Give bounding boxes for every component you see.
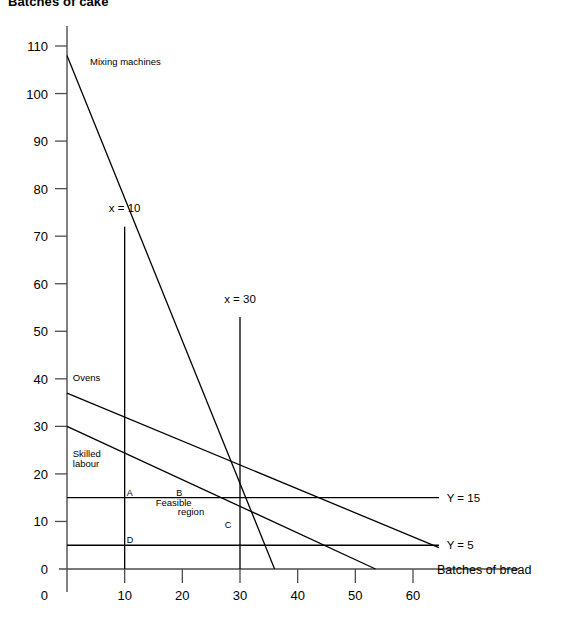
y-axis-tick-label: 0 bbox=[41, 562, 48, 577]
vertex-label-c: C bbox=[225, 520, 232, 530]
line-label-x-30: x = 30 bbox=[224, 293, 256, 305]
x-axis-tick-label: 30 bbox=[233, 588, 247, 603]
y-axis-ticks: 0102030405060708090100110 bbox=[26, 39, 67, 577]
line-label-skilled-labour: Skilledlabour bbox=[73, 448, 101, 469]
line-label-x-10: x = 10 bbox=[109, 202, 141, 214]
constraint-line bbox=[67, 56, 275, 569]
vertex-label-a: A bbox=[127, 488, 133, 498]
y-axis-tick-label: 50 bbox=[34, 324, 48, 339]
line-label-y-5: Y = 5 bbox=[447, 539, 474, 551]
line-label-mixing-machines: Mixing machines bbox=[90, 56, 161, 67]
y-axis-tick-label: 100 bbox=[26, 87, 48, 102]
constraint-line bbox=[67, 393, 439, 548]
y-axis-tick-label: 10 bbox=[34, 514, 48, 529]
x-axis-tick-label: 40 bbox=[290, 588, 304, 603]
y-axis-tick-label: 40 bbox=[34, 372, 48, 387]
y-axis-tick-label: 20 bbox=[34, 467, 48, 482]
y-axis-tick-label: 30 bbox=[34, 419, 48, 434]
x-axis-tick-label: 10 bbox=[117, 588, 131, 603]
y-axis-tick-label: 110 bbox=[27, 39, 48, 54]
vertex-label-d: D bbox=[127, 535, 134, 545]
y-axis-tick-label: 80 bbox=[34, 182, 48, 197]
y-axis-tick-label: 90 bbox=[34, 134, 48, 149]
chart-annotations: Feasibleregion bbox=[156, 497, 204, 518]
x-axis-tick-label: 20 bbox=[175, 588, 189, 603]
axes-group bbox=[59, 26, 519, 592]
constraint-lines bbox=[67, 56, 439, 569]
y-axis-tick-label: 70 bbox=[34, 229, 48, 244]
line-label-ovens: Ovens bbox=[73, 372, 101, 383]
x-axis-title: Batches of bread bbox=[437, 563, 532, 577]
origin-label: 0 bbox=[41, 588, 48, 603]
linear-programming-chart: Batches of cake 010203040506070809010011… bbox=[0, 0, 572, 617]
plot-area: 0102030405060708090100110 102030405060 M… bbox=[0, 0, 572, 617]
x-axis-ticks: 102030405060 bbox=[117, 569, 420, 603]
line-label-y-15: Y = 15 bbox=[447, 492, 480, 504]
x-axis-tick-label: 60 bbox=[406, 588, 420, 603]
y-axis-tick-label: 60 bbox=[34, 277, 48, 292]
feasible-region-2-label: region bbox=[178, 506, 204, 517]
constraint-line-labels: Mixing machinesOvensSkilledlabourx = 10x… bbox=[73, 56, 480, 551]
x-axis-tick-label: 50 bbox=[348, 588, 362, 603]
